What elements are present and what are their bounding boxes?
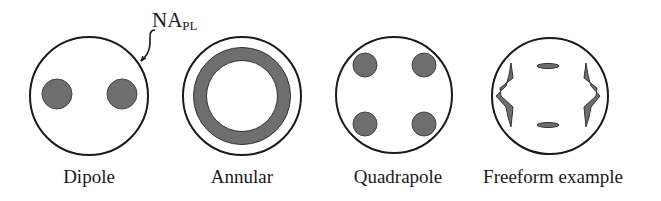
label-freeform: Freeform example (483, 166, 623, 188)
na-pl-annotation: NAPL (152, 8, 198, 34)
na-main-text: NA (152, 8, 182, 32)
dipole-pole-left (42, 79, 72, 109)
freeform-left-shape (496, 63, 513, 127)
dipole-pole-right (107, 79, 137, 109)
label-annular: Annular (211, 166, 273, 188)
freeform-bottom-lobe (537, 123, 559, 128)
freeform-pupil (492, 38, 608, 154)
na-subscript: PL (182, 18, 197, 33)
annular-pupil (183, 37, 301, 155)
quadrapole-pupil (336, 37, 452, 153)
quadrapole-pole (412, 112, 436, 136)
freeform-top-lobe (537, 64, 559, 69)
dipole-pupil (30, 37, 148, 155)
quadrapole-pole (412, 53, 436, 77)
annular-ring (200, 54, 284, 138)
quadrapole-pole (353, 112, 377, 136)
quadrapole-pole (353, 53, 377, 77)
label-dipole: Dipole (63, 166, 115, 188)
freeform-right-shape (584, 63, 600, 127)
label-quadrapole: Quadrapole (354, 166, 443, 188)
